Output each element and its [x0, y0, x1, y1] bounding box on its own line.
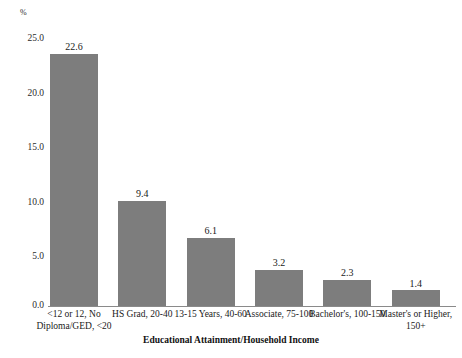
x-axis-category-label: Master's or Higher, 150+ [368, 309, 462, 332]
bar-value-label: 3.2 [255, 257, 303, 268]
bar-value-label: 9.4 [118, 188, 166, 199]
y-axis-tick-label: 20.0 [0, 88, 44, 98]
bar[interactable] [392, 290, 440, 306]
bar[interactable] [50, 54, 98, 306]
bar-value-label: 22.6 [50, 41, 98, 52]
bar[interactable] [118, 201, 166, 306]
bar[interactable] [255, 270, 303, 306]
bar[interactable] [323, 280, 371, 306]
y-axis-tick-label: 25.0 [0, 33, 44, 43]
x-axis-line [48, 306, 456, 307]
x-axis-category-label-line: Master's or Higher, [368, 309, 462, 321]
y-axis-tick-label: 15.0 [0, 142, 44, 152]
x-axis-category-label-line: Diploma/GED, <20 [26, 321, 122, 333]
bar[interactable] [187, 238, 235, 306]
bar-value-label: 2.3 [323, 267, 371, 278]
x-axis-title: Educational Attainment/Household Income [0, 334, 462, 346]
bar-value-label: 1.4 [392, 278, 440, 289]
x-axis-category-label-line: 150+ [368, 321, 462, 333]
y-axis-unit-label: % [20, 8, 27, 18]
y-axis-tick-label: 10.0 [0, 197, 44, 207]
bar-chart: % 25.0 20.0 15.0 10.0 5.0 0.0 22.6 9.4 6… [0, 0, 462, 358]
y-axis-tick-label: 5.0 [0, 251, 44, 261]
plot-area: 22.6 9.4 6.1 3.2 2.3 1.4 [48, 27, 454, 306]
bar-value-label: 6.1 [187, 225, 235, 236]
